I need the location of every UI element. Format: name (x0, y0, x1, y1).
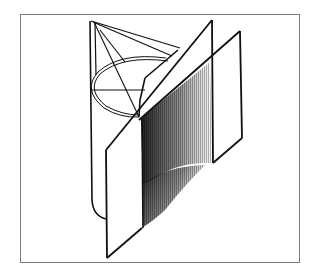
diagram-figure (0, 0, 316, 278)
cylinder-inner-edge (95, 22, 96, 75)
cylinder-outline (90, 21, 106, 219)
